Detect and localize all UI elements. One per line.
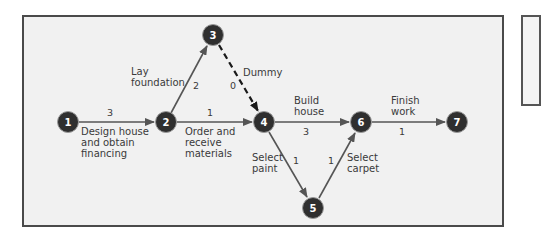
adjacent-panel-frame (521, 15, 541, 106)
svg-text:foundation: foundation (131, 77, 185, 88)
dummy-arrow-3-4 (219, 45, 258, 111)
duration-dummy-3-4: 0 (230, 80, 236, 91)
svg-text:1: 1 (65, 117, 72, 128)
label-lay-foundation: Lay foundation (131, 66, 185, 88)
duration-4-6: 3 (303, 126, 309, 137)
svg-text:7: 7 (454, 117, 461, 128)
node-5: 5 (303, 198, 324, 219)
label-select-carpet: Select carpet (347, 152, 379, 174)
svg-text:5: 5 (310, 203, 317, 214)
label-select-paint: Select paint (252, 152, 283, 174)
node-7: 7 (447, 112, 468, 133)
label-design-house: Design house and obtain financing (81, 126, 149, 159)
duration-1-2: 3 (107, 107, 113, 118)
svg-text:and obtain: and obtain (81, 137, 135, 148)
duration-4-5: 1 (293, 155, 299, 166)
svg-text:Lay: Lay (131, 66, 149, 77)
svg-text:2: 2 (163, 117, 170, 128)
svg-text:materials: materials (185, 148, 232, 159)
svg-text:receive: receive (185, 137, 222, 148)
label-build-house: Build house (294, 95, 324, 117)
svg-text:Select: Select (252, 152, 283, 163)
label-dummy: Dummy (243, 67, 283, 78)
node-6: 6 (351, 112, 372, 133)
svg-text:carpet: carpet (347, 163, 379, 174)
label-order-materials: Order and receive materials (185, 126, 235, 159)
node-4: 4 (254, 112, 275, 133)
duration-2-3: 2 (193, 80, 199, 91)
node-2: 2 (156, 112, 177, 133)
svg-text:Design house: Design house (81, 126, 149, 137)
svg-text:Order and: Order and (185, 126, 235, 137)
duration-6-7: 1 (399, 126, 405, 137)
duration-5-6: 1 (328, 155, 334, 166)
svg-text:6: 6 (358, 117, 365, 128)
svg-text:Finish: Finish (391, 95, 419, 106)
svg-text:Build: Build (294, 95, 319, 106)
svg-text:paint: paint (252, 163, 278, 174)
label-finish-work: Finish work (391, 95, 419, 117)
svg-text:Dummy: Dummy (243, 67, 283, 78)
svg-text:work: work (391, 106, 415, 117)
svg-text:financing: financing (81, 148, 127, 159)
svg-text:4: 4 (261, 117, 268, 128)
svg-text:house: house (294, 106, 324, 117)
node-3: 3 (203, 25, 224, 46)
duration-2-4: 1 (207, 107, 213, 118)
svg-text:Select: Select (347, 152, 378, 163)
svg-text:3: 3 (210, 30, 217, 41)
node-1: 1 (58, 112, 79, 133)
